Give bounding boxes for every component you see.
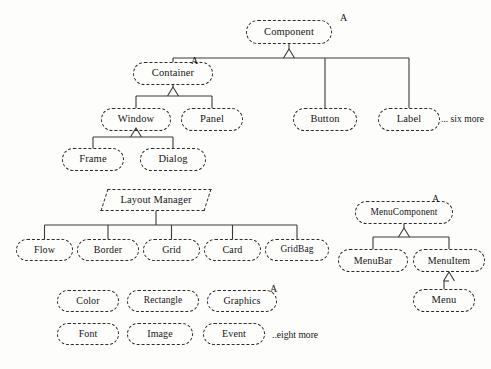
node-flow[interactable]: Flow <box>16 239 73 261</box>
node-label: Layout Manager <box>120 195 191 206</box>
node-label: Dialog <box>158 154 187 165</box>
class-hierarchy-diagram: Component Container Button Label Window … <box>0 0 491 369</box>
node-frame[interactable]: Frame <box>62 148 124 171</box>
node-border[interactable]: Border <box>77 239 139 261</box>
abstract-marker-graphics: A <box>270 283 277 294</box>
node-window[interactable]: Window <box>101 108 171 131</box>
node-label: Menu <box>432 295 457 306</box>
node-label: Component <box>264 27 314 38</box>
node-label: Label <box>397 114 421 125</box>
node-label: MenuBar <box>354 256 392 266</box>
node-button[interactable]: Button <box>293 108 357 131</box>
node-gridbag[interactable]: GridBag <box>265 239 329 261</box>
node-label-class[interactable]: Label <box>378 108 440 131</box>
note-six-more: ... six more <box>441 113 484 124</box>
node-label: Frame <box>79 154 106 165</box>
node-dialog[interactable]: Dialog <box>140 148 206 171</box>
node-label: Rectangle <box>144 296 182 305</box>
note-eight-more: ..eight more <box>272 329 318 340</box>
node-label: MenuItem <box>428 256 470 266</box>
node-menu[interactable]: Menu <box>413 289 475 312</box>
node-menucomponent[interactable]: MenuComponent <box>355 201 453 224</box>
node-label: Graphics <box>224 296 261 306</box>
node-label: Grid <box>162 245 181 255</box>
node-graphics[interactable]: Graphics <box>207 290 277 312</box>
node-component[interactable]: Component <box>246 20 332 44</box>
abstract-marker-menucomponent: A <box>432 193 439 204</box>
node-panel[interactable]: Panel <box>181 108 243 131</box>
node-label: Color <box>76 296 99 306</box>
node-label: Border <box>94 245 122 255</box>
abstract-marker-component: A <box>340 12 347 23</box>
node-font[interactable]: Font <box>57 323 119 345</box>
node-menuitem[interactable]: MenuItem <box>413 249 485 272</box>
node-image[interactable]: Image <box>127 323 193 345</box>
node-card[interactable]: Card <box>204 239 261 261</box>
node-label: Panel <box>200 114 224 125</box>
node-label: Event <box>222 329 246 339</box>
node-label: Card <box>223 245 243 255</box>
node-grid[interactable]: Grid <box>143 239 200 261</box>
node-label: GridBag <box>281 245 314 254</box>
node-event[interactable]: Event <box>203 323 265 345</box>
node-label: Container <box>152 68 194 79</box>
node-rectangle[interactable]: Rectangle <box>127 290 199 312</box>
abstract-marker-container: A <box>191 55 198 66</box>
node-label: Font <box>79 329 98 339</box>
node-label: MenuComponent <box>371 208 438 217</box>
node-label: Flow <box>34 245 55 255</box>
node-label: Window <box>118 114 154 125</box>
node-layout-manager[interactable]: Layout Manager <box>104 189 208 211</box>
edge-layer <box>0 0 491 369</box>
node-label: Button <box>310 114 339 125</box>
node-menubar[interactable]: MenuBar <box>338 249 408 272</box>
node-container[interactable]: Container <box>133 62 213 85</box>
node-label: Image <box>147 329 173 339</box>
node-color[interactable]: Color <box>57 290 119 312</box>
